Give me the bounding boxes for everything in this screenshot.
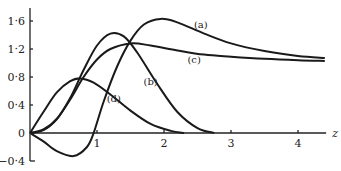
y-tick-label: 0	[18, 127, 25, 140]
axes: 1·61·20·80·40−0·41234z	[0, 8, 338, 168]
line-chart: 1·61·20·80·40−0·41234z (a)(b)(c)(d)	[0, 0, 341, 171]
curves	[30, 19, 325, 156]
curve-label: (d)	[107, 93, 121, 104]
curve-d	[30, 78, 184, 133]
curve-label: (c)	[187, 54, 201, 65]
x-tick-label: 2	[161, 137, 168, 150]
curve-labels: (a)(b)(c)(d)	[107, 19, 208, 104]
curve-label: (b)	[143, 76, 157, 87]
y-tick-label: 1·2	[8, 43, 26, 56]
y-tick-label: −0·4	[0, 155, 25, 168]
y-tick-label: 0·4	[8, 99, 26, 112]
x-tick-label: 1	[94, 137, 101, 150]
chart-container: 1·61·20·80·40−0·41234z (a)(b)(c)(d)	[0, 0, 341, 171]
x-axis-label: z	[331, 127, 338, 140]
y-tick-label: 0·8	[8, 71, 26, 84]
x-tick-label: 3	[228, 137, 235, 150]
curve-label: (a)	[194, 19, 208, 30]
x-tick-label: 4	[295, 137, 302, 150]
curve-a	[30, 19, 325, 156]
y-tick-label: 1·6	[8, 15, 26, 28]
